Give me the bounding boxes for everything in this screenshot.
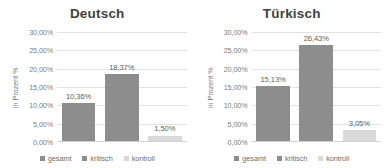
- bar-slot-kritisch[interactable]: 18,37%: [105, 32, 139, 141]
- bars-region-tuerkisch: 15,13% 26,43% 3,05%: [252, 32, 382, 142]
- legend-swatch-icon: [40, 156, 45, 161]
- y-axis-title-tuerkisch: in Prozent %: [204, 52, 218, 124]
- legend-deutsch: gesamt kritisch kontroll: [0, 154, 195, 163]
- chart-panel-tuerkisch: Türkisch in Prozent % 30,00% 25,00% 20,0…: [195, 0, 389, 168]
- bar-slot-kritisch[interactable]: 26,43%: [299, 32, 333, 141]
- bar-value-label: 15,13%: [261, 75, 286, 84]
- y-axis-ticks-deutsch: 30,00% 25,00% 20,00% 15,00% 10,00% 5,00%…: [24, 32, 56, 142]
- dual-bar-chart-figure: Deutsch in Prozent % 30,00% 25,00% 20,00…: [0, 0, 389, 168]
- legend-label: kritisch: [285, 154, 307, 163]
- bar-gesamt[interactable]: [256, 86, 290, 141]
- chart-title-deutsch: Deutsch: [0, 6, 195, 21]
- bar-slot-kontroll[interactable]: 1,50%: [148, 32, 182, 141]
- chart-panel-deutsch: Deutsch in Prozent % 30,00% 25,00% 20,00…: [0, 0, 195, 168]
- legend-label: kritisch: [90, 154, 112, 163]
- legend-item-kontroll[interactable]: kontroll: [318, 154, 349, 163]
- legend-item-gesamt[interactable]: gesamt: [40, 154, 72, 163]
- x-axis-baseline: [57, 141, 187, 142]
- bar-slot-gesamt[interactable]: 15,13%: [256, 32, 290, 141]
- legend-swatch-icon: [82, 156, 87, 161]
- y-tick-label: 5,00%: [33, 119, 53, 128]
- legend-tuerkisch: gesamt kritisch kontroll: [195, 154, 389, 163]
- bar-kontroll[interactable]: [148, 136, 182, 141]
- legend-swatch-icon: [124, 156, 129, 161]
- bar-slot-kontroll[interactable]: 3,05%: [343, 32, 377, 141]
- y-tick-label: 10,00%: [224, 101, 248, 110]
- y-tick-label: 20,00%: [224, 64, 248, 73]
- bar-group-tuerkisch: 15,13% 26,43% 3,05%: [252, 32, 382, 141]
- legend-item-kritisch[interactable]: kritisch: [82, 154, 112, 163]
- legend-label: gesamt: [242, 154, 266, 163]
- bar-kritisch[interactable]: [105, 74, 139, 141]
- plot-area-tuerkisch: 30,00% 25,00% 20,00% 15,00% 10,00% 5,00%…: [219, 32, 382, 142]
- bar-value-label: 3,05%: [349, 119, 370, 128]
- bar-value-label: 1,50%: [154, 124, 175, 133]
- legend-item-gesamt[interactable]: gesamt: [234, 154, 266, 163]
- y-tick-label: 10,00%: [29, 101, 53, 110]
- y-axis-title-deutsch: in Prozent %: [9, 52, 23, 124]
- bar-group-deutsch: 10,36% 18,37% 1,50%: [57, 32, 187, 141]
- y-tick-label: 15,00%: [224, 83, 248, 92]
- y-tick-label: 30,00%: [224, 28, 248, 37]
- legend-swatch-icon: [234, 156, 239, 161]
- bar-slot-gesamt[interactable]: 10,36%: [62, 32, 96, 141]
- bar-gesamt[interactable]: [62, 103, 96, 141]
- y-tick-label: 25,00%: [224, 46, 248, 55]
- chart-title-tuerkisch: Türkisch: [195, 6, 389, 21]
- y-axis-ticks-tuerkisch: 30,00% 25,00% 20,00% 15,00% 10,00% 5,00%…: [219, 32, 251, 142]
- y-tick-label: 0,00%: [33, 138, 53, 147]
- bars-region-deutsch: 10,36% 18,37% 1,50%: [57, 32, 187, 142]
- y-tick-label: 0,00%: [228, 138, 248, 147]
- bar-value-label: 18,37%: [109, 63, 134, 72]
- legend-item-kritisch[interactable]: kritisch: [277, 154, 307, 163]
- bar-kritisch[interactable]: [299, 45, 333, 141]
- legend-item-kontroll[interactable]: kontroll: [124, 154, 155, 163]
- legend-label: kontroll: [132, 154, 155, 163]
- y-tick-label: 25,00%: [29, 46, 53, 55]
- legend-swatch-icon: [318, 156, 323, 161]
- legend-swatch-icon: [277, 156, 282, 161]
- y-tick-label: 30,00%: [29, 28, 53, 37]
- bar-kontroll[interactable]: [343, 130, 377, 141]
- bar-value-label: 26,43%: [304, 34, 329, 43]
- x-axis-baseline: [252, 141, 382, 142]
- legend-label: gesamt: [48, 154, 72, 163]
- y-tick-label: 5,00%: [228, 119, 248, 128]
- plot-area-deutsch: 30,00% 25,00% 20,00% 15,00% 10,00% 5,00%…: [24, 32, 187, 142]
- y-tick-label: 20,00%: [29, 64, 53, 73]
- y-tick-label: 15,00%: [29, 83, 53, 92]
- legend-label: kontroll: [326, 154, 349, 163]
- bar-value-label: 10,36%: [66, 92, 91, 101]
